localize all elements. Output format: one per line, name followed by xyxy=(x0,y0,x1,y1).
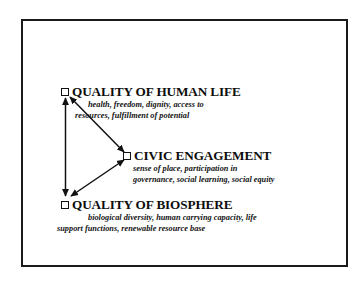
node-title: QUALITY OF BIOSPHERE xyxy=(72,198,232,212)
square-bullet-icon xyxy=(61,88,69,96)
node-header: CIVIC ENGAGEMENT xyxy=(123,149,275,163)
node-civic-engagement: CIVIC ENGAGEMENT sense of place, partici… xyxy=(123,149,275,186)
node-description-line: sense of place, participation in xyxy=(133,164,275,174)
square-bullet-icon xyxy=(61,201,69,209)
node-description-line: resources, fulfillment of potential xyxy=(75,111,241,121)
node-description-line: biological diversity, human carrying cap… xyxy=(88,213,257,223)
connector-layer xyxy=(0,0,363,289)
node-title: QUALITY OF HUMAN LIFE xyxy=(72,85,241,99)
connector-biosphere-to-civic-engagement xyxy=(71,160,124,196)
node-header: QUALITY OF HUMAN LIFE xyxy=(61,85,241,99)
node-quality-of-biosphere: QUALITY OF BIOSPHERE biological diversit… xyxy=(61,198,257,235)
node-description-line: health, freedom, dignity, access to xyxy=(88,100,241,110)
node-description-line: governance, social learning, social equi… xyxy=(133,175,275,185)
square-bullet-icon xyxy=(123,152,131,160)
node-title: CIVIC ENGAGEMENT xyxy=(134,149,271,163)
node-quality-of-human-life: QUALITY OF HUMAN LIFE health, freedom, d… xyxy=(61,85,241,122)
diagram-canvas: QUALITY OF HUMAN LIFE health, freedom, d… xyxy=(0,0,363,289)
node-description-line: support functions, renewable resource ba… xyxy=(57,224,257,234)
node-header: QUALITY OF BIOSPHERE xyxy=(61,198,257,212)
